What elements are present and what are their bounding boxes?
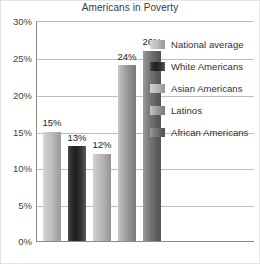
- legend-item-national-average: National average: [150, 33, 258, 55]
- legend-item-white-americans: White Americans: [150, 55, 258, 77]
- legend-item-african-americans: African Americans: [150, 121, 258, 143]
- legend-swatch-white-americans: [150, 62, 165, 71]
- y-tick-0: 0%: [0, 236, 32, 247]
- legend-label-african-americans: African Americans: [171, 127, 248, 138]
- legend-label-asian-americans: Asian Americans: [171, 83, 243, 94]
- y-tick-10: 10%: [0, 163, 32, 174]
- legend-item-latinos: Latinos: [150, 99, 258, 121]
- y-tick-5: 5%: [0, 200, 32, 211]
- y-tick-15: 15%: [0, 127, 32, 138]
- legend-swatch-asian-americans: [150, 84, 165, 93]
- y-tick-30: 30%: [0, 16, 32, 27]
- legend-label-latinos: Latinos: [171, 105, 202, 116]
- legend-label-white-americans: White Americans: [171, 61, 243, 72]
- legend-label-national-average: National average: [171, 39, 244, 50]
- legend-swatch-african-americans: [150, 128, 165, 137]
- legend-swatch-latinos: [150, 106, 165, 115]
- poverty-bar-chart: Americans in Poverty 15% 13% 12% 24% 26%…: [0, 0, 260, 264]
- y-tick-20: 20%: [0, 90, 32, 101]
- legend-swatch-national-average: [150, 40, 165, 49]
- y-tick-25: 25%: [0, 53, 32, 64]
- legend-item-asian-americans: Asian Americans: [150, 77, 258, 99]
- chart-legend: National average White Americans Asian A…: [150, 33, 258, 143]
